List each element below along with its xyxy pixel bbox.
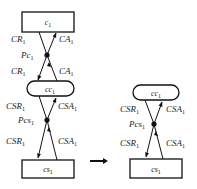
left-diagram: c1 CR1 CA1 Pc1 CR1 CA1 cc1 <box>6 12 77 178</box>
edge-ca-lower <box>47 55 57 81</box>
edge-cr-upper <box>39 32 47 55</box>
label-ca1-lower: CA1 <box>59 66 74 77</box>
label-pc1: Pc1 <box>20 50 34 61</box>
place-pcs1-right <box>151 121 156 126</box>
arrow-head-icon <box>47 127 51 132</box>
label-csa1-lower-right: CSA1 <box>166 138 185 149</box>
edge-ca-upper <box>47 33 56 55</box>
label-cr1-upper: CR1 <box>11 34 26 45</box>
place-pcs1 <box>44 117 49 122</box>
edge-csr-lower <box>38 120 47 158</box>
petri-net-reduction-diagram: c1 CR1 CA1 Pc1 CR1 CA1 cc1 <box>0 0 197 189</box>
label-csa1-upper: CSA1 <box>58 101 77 112</box>
edge-cr-lower <box>38 55 47 80</box>
label-cr1-lower: CR1 <box>11 66 26 77</box>
edge-csa-upper <box>47 98 56 120</box>
crossing-edges-right <box>145 100 163 159</box>
edge-csa-lower-right <box>154 124 163 159</box>
label-ca1-upper: CA1 <box>59 34 74 45</box>
right-diagram: cc1 CSR1 CSA1 Pcs1 CSR1 CSA1 cs1 <box>120 85 185 178</box>
label-csr1-upper: CSR1 <box>6 101 25 112</box>
place-pc1 <box>44 52 49 57</box>
node-cc1: cc1 <box>27 81 74 96</box>
arrow-head-icon <box>154 131 158 136</box>
label-csa1-upper-right: CSA1 <box>166 104 185 115</box>
transform-arrow-icon <box>90 158 108 164</box>
edge-csr-upper-right <box>145 100 154 124</box>
node-cs1-right: cs1 <box>130 159 182 178</box>
edge-csr-lower-right <box>146 124 154 157</box>
label-csa1-lower: CSA1 <box>58 136 77 147</box>
label-csr1-lower: CSR1 <box>6 136 25 147</box>
node-cs1: cs1 <box>22 160 74 178</box>
upper-crossing-edges <box>38 32 57 81</box>
edge-csa-upper-right <box>154 102 162 124</box>
label-pcs1-right: Pcs1 <box>128 119 145 130</box>
node-cc1-right: cc1 <box>133 85 179 100</box>
node-c1: c1 <box>22 12 74 32</box>
edge-csa-lower <box>47 120 57 160</box>
lower-crossing-edges <box>38 96 57 160</box>
label-csr1-upper-right: CSR1 <box>120 104 139 115</box>
label-pcs1: Pcs1 <box>17 115 34 126</box>
edge-csr-upper <box>39 96 47 120</box>
label-csr1-lower-right: CSR1 <box>120 138 139 149</box>
